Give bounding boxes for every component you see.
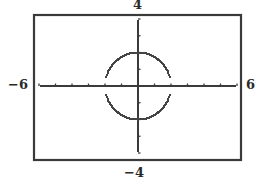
graph-screen [0, 0, 256, 189]
axes [39, 19, 237, 153]
